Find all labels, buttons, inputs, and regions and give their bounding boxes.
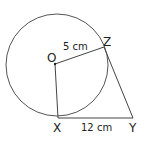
measure-XY: 12 cm	[81, 122, 112, 133]
label-Z: Z	[103, 35, 111, 49]
measure-OZ: 5 cm	[63, 41, 88, 52]
label-O: O	[47, 51, 56, 65]
segment-OX	[55, 64, 58, 118]
segment-ZY	[104, 47, 133, 118]
diagram-stage: O Z X Y 5 cm 12 cm	[0, 0, 145, 142]
label-Y: Y	[128, 121, 137, 135]
geometry-figure: O Z X Y 5 cm 12 cm	[0, 0, 145, 142]
label-X: X	[53, 121, 61, 135]
